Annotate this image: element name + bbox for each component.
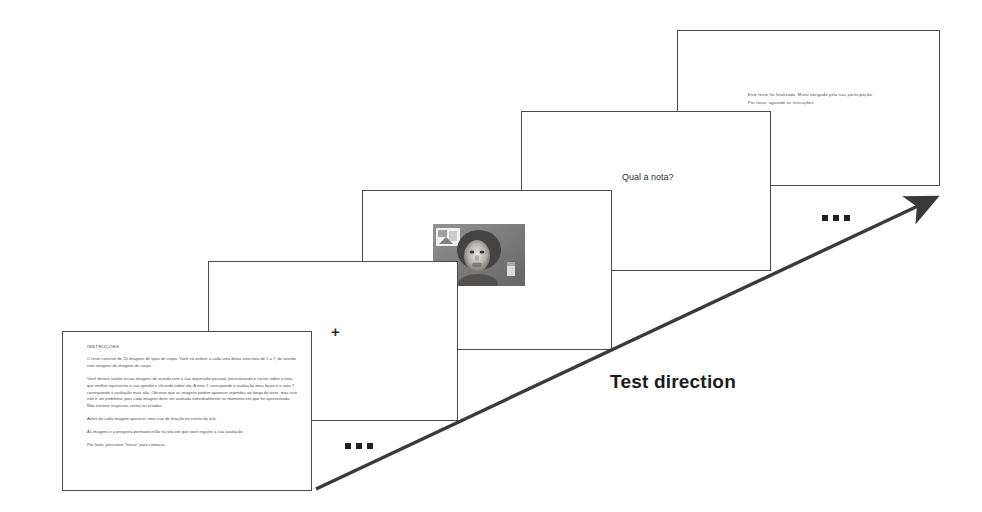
ellipsis-dot: [833, 215, 839, 221]
instructions-paragraph-2: Você deverá avaliar essas imagens de aco…: [87, 376, 297, 409]
ellipsis-dot: [822, 215, 828, 221]
instructions-text-block: INSTRUÇÕES O teste consiste de 20 imagen…: [87, 344, 297, 455]
instructions-paragraph-1: O teste consiste de 20 imagens de tipos …: [87, 356, 297, 369]
ellipsis-dot: [367, 443, 373, 449]
instructions-paragraph-4: As imagens e a pergunta permanecerão na …: [87, 429, 297, 436]
ellipsis-end-icon: [822, 215, 850, 221]
ellipsis-dot: [844, 215, 850, 221]
final-text-block: Este teste foi finalizado. Muito obrigad…: [748, 91, 929, 107]
final-text-line-2: Por favor, aguarde as instruções.: [748, 99, 929, 107]
ellipsis-dot: [345, 443, 351, 449]
final-text-line-1: Este teste foi finalizado. Muito obrigad…: [748, 91, 929, 99]
trial-sequence-figure: INSTRUÇÕES O teste consiste de 20 imagen…: [0, 0, 982, 512]
test-direction-label: Test direction: [610, 371, 736, 393]
rating-prompt-text: Qual a nota?: [622, 172, 674, 182]
instructions-title: INSTRUÇÕES: [87, 344, 297, 349]
instructions-paragraph-3: Antes de cada imagem aparecer uma cruz d…: [87, 416, 297, 423]
instructions-paragraph-5: Por favor, pressione "Iniciar" para come…: [87, 442, 297, 449]
fixation-cross-icon: +: [331, 324, 340, 339]
instructions-slide: INSTRUÇÕES O teste consiste de 20 imagen…: [62, 331, 312, 491]
ellipsis-start-icon: [345, 443, 373, 449]
ellipsis-dot: [356, 443, 362, 449]
